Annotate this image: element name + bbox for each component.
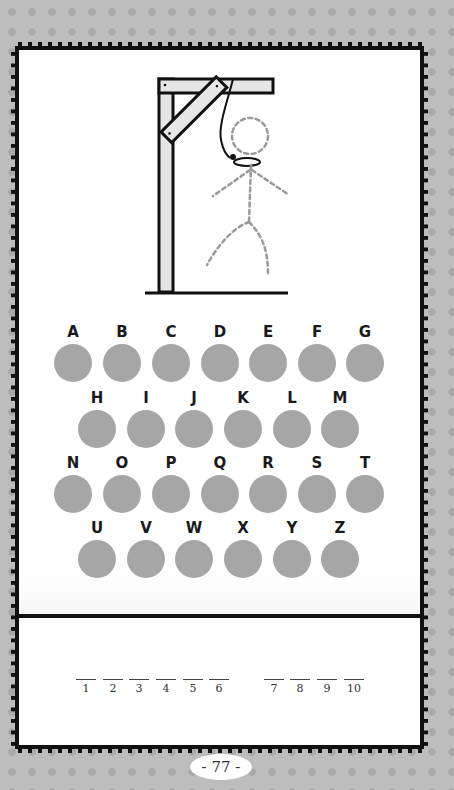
letter-button-i[interactable] bbox=[127, 410, 165, 448]
blank-number-8: 8 bbox=[290, 682, 310, 695]
letter-label-l: L bbox=[272, 389, 312, 407]
blank-number-2: 2 bbox=[103, 682, 123, 695]
letter-label-s: S bbox=[297, 454, 337, 472]
letter-label-r: R bbox=[248, 454, 288, 472]
border-teeth-bottom bbox=[18, 749, 422, 753]
figure-right-leg bbox=[249, 222, 268, 273]
letter-label-g: G bbox=[345, 323, 385, 341]
letter-button-t[interactable] bbox=[346, 475, 384, 513]
letter-button-m[interactable] bbox=[321, 410, 359, 448]
letter-label-d: D bbox=[200, 323, 240, 341]
figure-body bbox=[249, 165, 251, 222]
blank-number-1: 1 bbox=[76, 682, 96, 695]
gallows-drawing bbox=[0, 0, 454, 320]
letter-button-d[interactable] bbox=[201, 344, 239, 382]
blank-line-2[interactable] bbox=[103, 679, 123, 680]
letter-button-x[interactable] bbox=[224, 540, 262, 578]
blank-number-4: 4 bbox=[156, 682, 176, 695]
letter-button-f[interactable] bbox=[298, 344, 336, 382]
blank-number-5: 5 bbox=[183, 682, 203, 695]
letter-label-h: H bbox=[77, 389, 117, 407]
letter-button-j[interactable] bbox=[175, 410, 213, 448]
blank-line-7[interactable] bbox=[264, 679, 284, 680]
blank-line-8[interactable] bbox=[290, 679, 310, 680]
letter-button-g[interactable] bbox=[346, 344, 384, 382]
letter-button-s[interactable] bbox=[298, 475, 336, 513]
letter-button-n[interactable] bbox=[54, 475, 92, 513]
letter-button-u[interactable] bbox=[78, 540, 116, 578]
stick-figure bbox=[207, 118, 289, 273]
letter-label-n: N bbox=[53, 454, 93, 472]
blank-line-9[interactable] bbox=[317, 679, 337, 680]
letter-button-p[interactable] bbox=[152, 475, 190, 513]
noose-loop bbox=[234, 158, 260, 166]
letter-button-c[interactable] bbox=[152, 344, 190, 382]
blank-line-6[interactable] bbox=[209, 679, 229, 680]
letter-button-r[interactable] bbox=[249, 475, 287, 513]
letter-label-x: X bbox=[223, 519, 263, 537]
blank-line-3[interactable] bbox=[129, 679, 149, 680]
letter-button-q[interactable] bbox=[201, 475, 239, 513]
divider-line bbox=[15, 614, 424, 618]
blank-number-6: 6 bbox=[209, 682, 229, 695]
letter-button-b[interactable] bbox=[103, 344, 141, 382]
letter-label-o: O bbox=[102, 454, 142, 472]
letter-button-h[interactable] bbox=[78, 410, 116, 448]
blank-line-5[interactable] bbox=[183, 679, 203, 680]
letter-label-t: T bbox=[345, 454, 385, 472]
letter-button-a[interactable] bbox=[54, 344, 92, 382]
letter-label-v: V bbox=[126, 519, 166, 537]
blank-number-3: 3 bbox=[129, 682, 149, 695]
letter-label-i: I bbox=[126, 389, 166, 407]
blank-line-10[interactable] bbox=[344, 679, 364, 680]
blank-number-7: 7 bbox=[264, 682, 284, 695]
letter-label-p: P bbox=[151, 454, 191, 472]
blank-number-10: 10 bbox=[344, 682, 364, 695]
letter-label-u: U bbox=[77, 519, 117, 537]
letter-button-k[interactable] bbox=[224, 410, 262, 448]
letter-button-z[interactable] bbox=[321, 540, 359, 578]
figure-left-arm bbox=[213, 170, 250, 196]
letter-label-c: C bbox=[151, 323, 191, 341]
blank-line-4[interactable] bbox=[156, 679, 176, 680]
letter-label-f: F bbox=[297, 323, 337, 341]
letter-label-z: Z bbox=[320, 519, 360, 537]
gallows-post bbox=[159, 79, 173, 292]
letter-button-y[interactable] bbox=[273, 540, 311, 578]
figure-right-arm bbox=[252, 170, 289, 195]
letter-label-y: Y bbox=[272, 519, 312, 537]
letter-button-l[interactable] bbox=[273, 410, 311, 448]
blank-line-1[interactable] bbox=[76, 679, 96, 680]
blank-number-9: 9 bbox=[317, 682, 337, 695]
letter-label-w: W bbox=[174, 519, 214, 537]
letter-label-e: E bbox=[248, 323, 288, 341]
letter-button-v[interactable] bbox=[127, 540, 165, 578]
page-number: - 77 - bbox=[190, 754, 252, 780]
letter-button-o[interactable] bbox=[103, 475, 141, 513]
letter-button-w[interactable] bbox=[175, 540, 213, 578]
letter-label-j: J bbox=[174, 389, 214, 407]
letter-button-e[interactable] bbox=[249, 344, 287, 382]
figure-left-leg bbox=[207, 222, 249, 265]
letter-label-a: A bbox=[53, 323, 93, 341]
letter-label-k: K bbox=[223, 389, 263, 407]
letter-label-m: M bbox=[320, 389, 360, 407]
figure-head bbox=[232, 118, 268, 154]
letter-label-q: Q bbox=[200, 454, 240, 472]
letter-label-b: B bbox=[102, 323, 142, 341]
